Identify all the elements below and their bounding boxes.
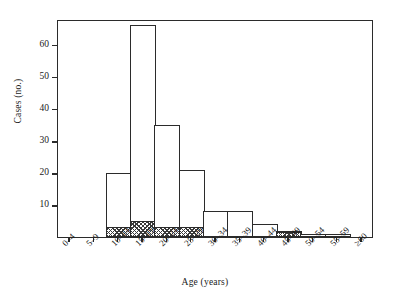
y-tick-label: 20 (40, 167, 50, 177)
y-tick-label: 40 (40, 103, 50, 113)
plot-area (57, 20, 373, 238)
y-tick-label: 60 (40, 39, 50, 49)
histogram-bar (130, 25, 156, 237)
histogram-figure: Cases (no.) 102030405060 0–45–910–1415–1… (0, 0, 410, 298)
x-axis-title: Age (years) (0, 277, 410, 287)
y-tick-label: 50 (40, 71, 50, 81)
y-axis-title: Cases (no.) (13, 51, 23, 151)
y-tick-label: 30 (40, 135, 50, 145)
y-tick-label: 10 (40, 199, 50, 209)
histogram-bar (154, 125, 180, 237)
